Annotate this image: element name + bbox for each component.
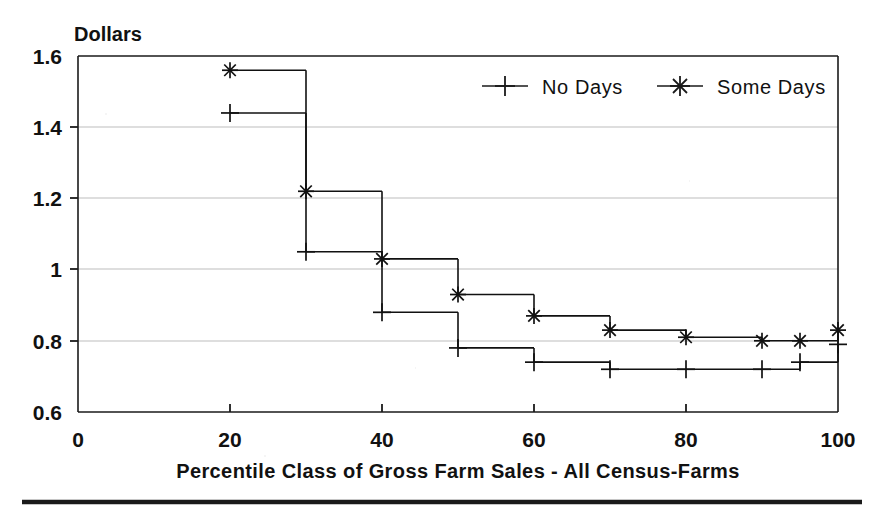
x-tick-label-40: 40	[370, 428, 393, 451]
y-tick-label-1-4: 1.4	[33, 116, 63, 139]
y-tick-label-1-0: 1	[50, 258, 62, 281]
chart-figure: Dollars 1.6 1.4 1.2 1 0.8	[0, 0, 884, 518]
x-axis-title: Percentile Class of Gross Farm Sales - A…	[176, 460, 740, 482]
y-tick-label-1-6: 1.6	[33, 45, 62, 68]
x-tick-label-100: 100	[820, 428, 855, 451]
y-axis-unit-label: Dollars	[74, 23, 142, 45]
asterisk-icon	[670, 76, 690, 96]
step-chart: Dollars 1.6 1.4 1.2 1 0.8	[0, 0, 884, 518]
y-tick-label-0-8: 0.8	[33, 330, 63, 353]
y-tick-label-1-2: 1.2	[33, 187, 62, 210]
x-tick-label-80: 80	[674, 428, 697, 451]
x-tick-label-60: 60	[522, 428, 545, 451]
y-tick-label-0-6: 0.6	[33, 401, 62, 424]
legend-label-some-days: Some Days	[717, 76, 826, 98]
legend-label-no-days: No Days	[542, 76, 623, 98]
x-tick-label-20: 20	[218, 428, 241, 451]
x-tick-label-0: 0	[72, 428, 84, 451]
